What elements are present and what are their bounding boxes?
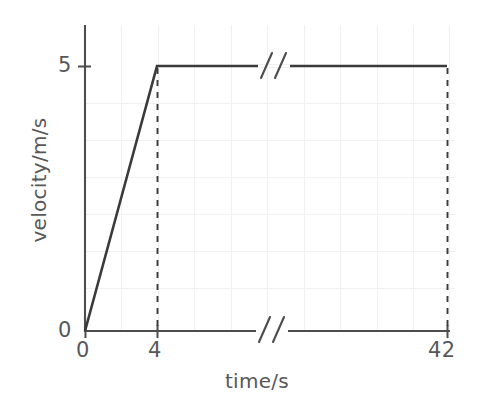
x-axis-tick-label-0: 0: [76, 340, 90, 361]
y-axis-title: velocity/m/s: [26, 30, 52, 330]
y-axis-tick-label-5: 5: [58, 55, 72, 76]
plot-area: [0, 0, 482, 408]
guide-lines: [158, 68, 448, 330]
y-axis-tick-label-0: 0: [58, 320, 72, 341]
grid-lines: [84, 25, 455, 331]
x-axis-tick-label-42: 42: [428, 340, 456, 361]
velocity-curve: [85, 66, 447, 331]
x-axis-title: time/s: [0, 371, 482, 391]
velocity-time-graph: 5 0 0 4 42 time/s velocity/m/s: [0, 0, 482, 408]
x-axis-title-text: time/s: [225, 371, 289, 391]
x-axis-tick-label-4: 4: [148, 340, 162, 361]
tick-marks: [78, 67, 448, 339]
